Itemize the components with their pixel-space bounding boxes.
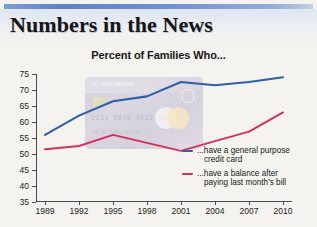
x-axis-label: 1989: [36, 206, 55, 216]
legend-item-balance: ...have a balance after paying last mont…: [182, 169, 314, 188]
y-axis-tick: [32, 202, 36, 203]
legend-label-line1: ...have a general purpose: [197, 146, 290, 155]
y-axis-label: 55: [20, 133, 29, 143]
legend-label-line1: ...have a balance after: [197, 169, 278, 178]
x-axis-label: 2010: [274, 206, 293, 216]
y-axis-label: 50: [20, 149, 29, 159]
legend-label-credit-card: ...have a general purpose credit card: [197, 146, 314, 165]
y-axis-label: 40: [20, 181, 29, 191]
y-axis-label: 45: [20, 165, 29, 175]
legend-label-line2: paying last month's bill: [197, 178, 314, 187]
legend-label-line2: credit card: [197, 155, 314, 164]
x-axis-label: 2007: [240, 206, 259, 216]
y-axis-label: 35: [20, 197, 29, 207]
legend-label-balance: ...have a balance after paying last mont…: [197, 169, 314, 188]
legend-swatch-pink: [182, 173, 193, 175]
y-axis-label: 70: [20, 85, 29, 95]
page-title: Numbers in the News: [10, 12, 213, 38]
y-axis-label: 60: [20, 117, 29, 127]
y-axis-label: 65: [20, 101, 29, 111]
x-axis-label: 2004: [206, 206, 225, 216]
chart-title: Percent of Families Who...: [0, 49, 317, 61]
legend-item-credit-card: ...have a general purpose credit card: [182, 146, 314, 165]
chart-legend: ...have a general purpose credit card ..…: [182, 146, 314, 192]
x-axis-label: 1992: [70, 206, 89, 216]
x-axis-label: 1998: [138, 206, 157, 216]
x-axis-label: 2001: [172, 206, 191, 216]
y-axis-label: 75: [20, 69, 29, 79]
series-line-credit-card: [45, 77, 283, 135]
x-axis-label: 1995: [104, 206, 123, 216]
legend-swatch-blue: [182, 150, 193, 152]
news-graphic-page: Numbers in the News Percent of Families …: [0, 0, 317, 227]
